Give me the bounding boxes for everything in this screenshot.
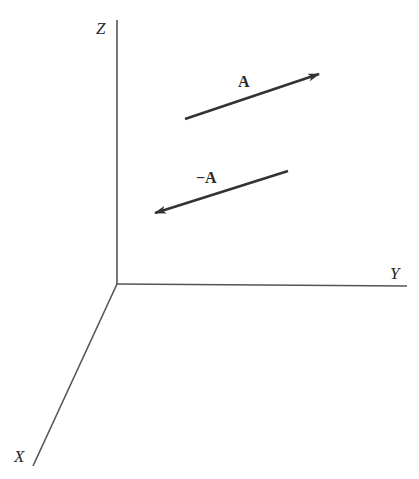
vector-diagram: Z Y X A −A	[0, 0, 419, 479]
x-axis-label: X	[13, 447, 25, 466]
vector-neg-a-label: −A	[196, 169, 217, 186]
y-axis	[116, 284, 407, 286]
vector-neg-a-arrow	[155, 171, 288, 213]
y-axis-label: Y	[390, 264, 401, 283]
vector-a-arrow	[185, 74, 319, 119]
x-axis	[33, 284, 117, 466]
z-axis-label: Z	[96, 19, 106, 38]
vector-a-label: A	[238, 73, 250, 90]
